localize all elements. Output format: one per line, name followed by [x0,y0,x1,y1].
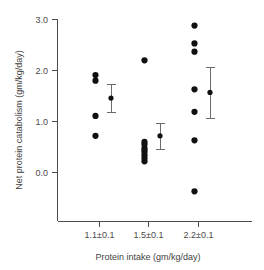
x-axis-ticks: 1.1±0.1 1.5±0.1 2.2±0.1 [85,222,214,241]
y-axis-title: Net protein catabolism (gm/kg/day) [14,50,24,190]
data-point [191,23,197,29]
data-point [191,188,197,194]
y-tick-label-2: 2.0 [35,66,48,76]
y-tick-label-3: 3.0 [35,15,48,25]
x-tick-label-2: 1.5±0.1 [134,230,164,240]
data-point [191,49,197,55]
data-point [92,78,98,84]
y-tick-label-0: 0.0 [35,168,48,178]
series-group [191,23,214,195]
data-point [141,158,147,164]
x-tick-label-1: 1.1±0.1 [85,230,115,240]
data-layer [92,23,214,195]
series-group [92,72,115,139]
data-point [141,57,147,63]
series-group [141,57,164,164]
mean-marker [157,133,162,138]
data-point [92,133,98,139]
mean-marker [207,90,212,95]
x-tick-label-3: 2.2±0.1 [184,230,214,240]
data-point [191,40,197,46]
y-tick-label-1: 1.0 [35,117,48,127]
data-point [92,72,98,78]
scatter-plot: 3.0 2.0 1.0 0.0 1.1±0.1 1.5±0.1 2.2±0.1 … [0,0,264,270]
data-point [191,137,197,143]
mean-marker [108,95,113,100]
data-point [191,109,197,115]
chart-figure: 3.0 2.0 1.0 0.0 1.1±0.1 1.5±0.1 2.2±0.1 … [0,0,264,270]
y-axis-ticks: 3.0 2.0 1.0 0.0 [35,15,57,178]
x-axis-title: Protein intake (gm/kg/day) [95,252,200,262]
data-point [92,113,98,119]
data-point [191,86,197,92]
